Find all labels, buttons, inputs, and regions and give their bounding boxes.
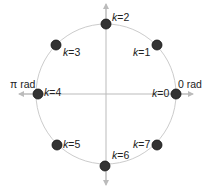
point-label-k7: k=7 [133, 138, 150, 150]
axis-label-zero-rad: 0 rad [178, 78, 202, 90]
phase-point-k4 [33, 89, 43, 99]
point-label-k5: k=5 [63, 138, 80, 150]
point-label-k6: k=6 [112, 149, 129, 161]
diagram-canvas: 0 rad π rad k=0k=1k=2k=3k=4k=5k=6k=7 [0, 0, 212, 189]
phase-circle-diagram: 0 rad π rad k=0k=1k=2k=3k=4k=5k=6k=7 [0, 0, 212, 189]
phase-point-k2 [101, 19, 111, 29]
point-label-k1: k=1 [133, 46, 150, 58]
point-label-k4: k=4 [44, 86, 61, 98]
phase-point-k7 [152, 140, 162, 150]
point-label-k0: k=0 [152, 87, 169, 99]
point-label-k2: k=2 [112, 11, 129, 23]
phase-point-k5 [52, 140, 62, 150]
phase-point-k1 [152, 40, 162, 50]
phase-point-k3 [51, 40, 61, 50]
phase-point-k0 [171, 89, 181, 99]
point-label-k3: k=3 [63, 46, 80, 58]
axis-label-pi-rad: π rad [10, 78, 35, 90]
phase-point-k6 [100, 161, 110, 171]
phase-points-group: k=0k=1k=2k=3k=4k=5k=6k=7 [33, 11, 181, 171]
